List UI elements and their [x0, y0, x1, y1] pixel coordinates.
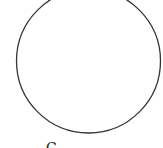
circle-shape [0, 0, 163, 148]
circle-outline [17, 0, 161, 133]
caption-text: C [46, 141, 57, 148]
